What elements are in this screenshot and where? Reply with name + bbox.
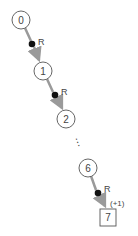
edge-label: R — [38, 37, 45, 47]
state-chain-diagram: R R R (+1) ⋮ 0 1 2 6 7 — [0, 0, 138, 236]
edge-6-7: R (+1) — [91, 176, 125, 208]
edge-annotation: (+1) — [110, 199, 125, 208]
ellipsis: ⋮ — [70, 135, 83, 149]
node-7-terminal: 7 — [100, 209, 116, 226]
svg-text:1: 1 — [40, 66, 46, 77]
edge-label: R — [104, 184, 111, 194]
node-1: 1 — [34, 62, 52, 80]
svg-text:2: 2 — [63, 114, 69, 125]
transition-dot — [95, 190, 102, 197]
node-6: 6 — [79, 159, 97, 177]
edge-1-2: R — [47, 79, 68, 108]
svg-text:6: 6 — [85, 163, 91, 174]
svg-text:0: 0 — [18, 15, 24, 26]
edge-label: R — [61, 87, 68, 97]
edge-0-1: R — [25, 28, 45, 60]
node-2: 2 — [57, 110, 75, 128]
node-0: 0 — [12, 11, 30, 29]
svg-text:7: 7 — [105, 212, 111, 223]
transition-dot — [29, 41, 36, 48]
transition-dot — [52, 92, 59, 99]
